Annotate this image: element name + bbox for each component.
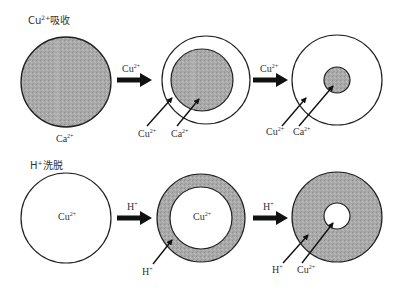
bead-unshaded-core	[324, 203, 350, 229]
top-stage2-label-cu: Cu2+	[138, 128, 157, 139]
bold-arrow-icon	[117, 211, 152, 225]
top-stage3-bead: Cu2+ Ca2+	[266, 35, 382, 137]
pointer-arrow	[147, 98, 172, 126]
top-stage3-label-cu: Cu2+	[266, 126, 285, 137]
bead-shaded-core	[324, 67, 350, 93]
top-row-absorption: Cu2+吸收 Ca2+ Cu2+ Cu2+ Ca2+ Cu2+	[21, 14, 382, 144]
pointer-arrow	[283, 235, 308, 263]
top-arrow2-label: Cu2+	[260, 63, 279, 74]
bold-arrow-icon	[253, 73, 288, 87]
top-stage1-label: Ca2+	[56, 133, 74, 144]
top-arrow2: Cu2+	[253, 63, 288, 87]
bottom-stage3-bead: H+ Cu2+	[272, 172, 382, 275]
bottom-arrow2: H+	[253, 201, 288, 225]
top-stage1-bead: Ca2+	[21, 37, 111, 144]
bottom-arrow1-label: H+	[127, 201, 138, 212]
bead-shaded-full	[21, 37, 111, 127]
top-arrow1-label: Cu2+	[122, 63, 141, 74]
pointer-arrow	[153, 240, 172, 264]
bottom-arrow2-label: H+	[263, 201, 274, 212]
top-arrow1: Cu2+	[117, 63, 152, 87]
top-stage2-bead: Cu2+ Ca2+	[138, 36, 250, 139]
bottom-stage1-bead: Cu2+	[21, 173, 111, 263]
bottom-row-title: H+洗脱	[30, 159, 63, 171]
top-stage3-label-ca: Ca2+	[293, 126, 311, 137]
bottom-stage2-label-h: H+	[142, 266, 153, 277]
bold-arrow-icon	[253, 211, 288, 225]
bead-shaded-core	[171, 49, 233, 111]
top-row-title: Cu2+吸收	[28, 14, 70, 26]
bottom-arrow1: H+	[117, 201, 152, 225]
ion-exchange-diagram: Cu2+吸收 Ca2+ Cu2+ Cu2+ Ca2+ Cu2+	[0, 0, 402, 292]
top-stage2-label-ca: Ca2+	[171, 128, 189, 139]
bottom-stage2-bead: Cu2+ H+	[142, 174, 245, 277]
bottom-stage3-label-cu: Cu2+	[297, 264, 316, 275]
bottom-stage3-label-h: H+	[272, 264, 283, 275]
bottom-row-elution: H+洗脱 Cu2+ H+ Cu2+ H+ H+	[21, 159, 382, 277]
bold-arrow-icon	[117, 73, 152, 87]
